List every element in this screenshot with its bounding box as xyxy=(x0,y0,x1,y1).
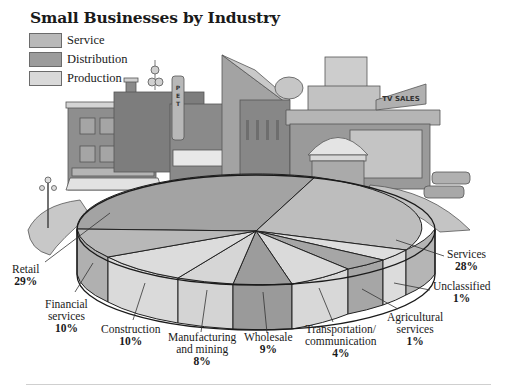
label-agricultural-name1: Agricultural xyxy=(387,311,443,323)
label-retail: Retail 29% xyxy=(12,263,39,287)
label-retail-name: Retail xyxy=(12,263,39,275)
label-services: Services 28% xyxy=(447,248,486,272)
label-unclassified-name: Unclassified xyxy=(433,280,490,292)
label-construction-pct: 10% xyxy=(101,335,160,347)
label-manufacturing: Manufacturing and mining 8% xyxy=(168,331,236,367)
svg-text:E: E xyxy=(176,92,180,99)
label-manufacturing-name1: Manufacturing xyxy=(168,331,236,343)
label-wholesale-pct: 9% xyxy=(244,343,293,355)
label-wholesale-name: Wholesale xyxy=(244,331,293,343)
label-manufacturing-pct: 8% xyxy=(168,355,236,367)
label-transport-name1: Transportation/ xyxy=(305,323,377,335)
label-financial-pct: 10% xyxy=(45,322,88,334)
label-services-name: Services xyxy=(447,248,486,260)
label-financial-name2: services xyxy=(45,310,88,322)
label-transport: Transportation/ communication 4% xyxy=(305,323,377,359)
label-wholesale: Wholesale 9% xyxy=(244,331,293,355)
label-financial-name1: Financial xyxy=(45,298,88,310)
tv-sales-sign-text: TV SALES xyxy=(382,95,419,103)
label-financial: Financial services 10% xyxy=(45,298,88,334)
label-agricultural: Agricultural services 1% xyxy=(387,311,443,347)
round-sign xyxy=(275,77,303,99)
label-services-pct: 28% xyxy=(447,260,486,272)
label-manufacturing-name2: and mining xyxy=(168,343,236,355)
label-construction: Construction 10% xyxy=(101,323,160,347)
label-transport-name2: communication xyxy=(305,335,377,347)
car xyxy=(432,172,470,184)
label-agricultural-pct: 1% xyxy=(387,335,443,347)
pet-sign-text: P xyxy=(176,84,181,91)
pie-side-wholesale xyxy=(233,284,292,330)
car xyxy=(424,186,464,198)
label-unclassified-pct: 1% xyxy=(433,292,490,304)
pie-chart xyxy=(77,174,435,330)
label-transport-pct: 4% xyxy=(305,347,377,359)
label-construction-name: Construction xyxy=(101,323,160,335)
label-retail-pct: 29% xyxy=(12,275,39,287)
label-agricultural-name2: services xyxy=(387,323,443,335)
pie-side-manufacturing xyxy=(178,278,233,329)
label-unclassified: Unclassified 1% xyxy=(433,280,490,304)
bottom-rule xyxy=(26,384,491,385)
